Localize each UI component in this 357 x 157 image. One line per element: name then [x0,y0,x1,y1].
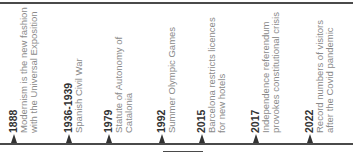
triangle-marker-icon [159,134,165,143]
triangle-marker-icon [307,134,313,143]
top-rule [0,2,353,4]
highlight-underline [163,151,203,152]
triangle-marker-icon [66,134,72,143]
event-description: Spanish Civil War [74,58,84,133]
timeline-event: 1979 Statute of Autonomy of Catalonia [103,37,134,133]
triangle-marker-icon [253,134,259,143]
event-description: Catalonia [124,37,134,133]
timeline-event: 1888 Modernism is the new fashion with t… [8,7,39,133]
triangle-marker-icon [199,134,205,143]
timeline-event: 1936-1939 Spanish Civil War [63,58,84,133]
timeline-axis [0,143,353,145]
triangle-marker-icon [106,134,112,143]
event-description: provokes constitutional crisis [271,12,281,133]
event-description: after the Covid pandemic [325,20,335,133]
timeline-event: 2015 Barcelona restricts licences for ne… [196,17,227,133]
triangle-marker-icon [11,134,17,143]
timeline-event: 2022 Record numbers of visitors after th… [304,20,335,133]
event-description: Summer Olympic Games [167,27,177,133]
event-description: with the Universal Exposition [29,7,39,133]
timeline-event: 1992 Summer Olympic Games [156,27,177,133]
event-description: for new hotels [217,17,227,133]
timeline-event: 2017 Independence referendum provokes co… [250,12,281,133]
